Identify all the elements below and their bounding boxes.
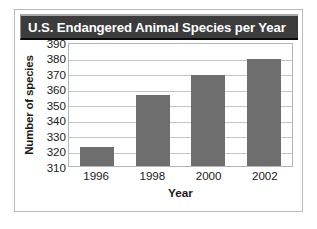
y-axis-title: Number of species [18,43,40,167]
y-axis-tick-label: 350 [47,99,66,112]
bar [191,75,225,166]
y-axis-tick-label: 330 [47,130,66,143]
y-axis-tick-label: 320 [47,145,66,158]
x-axis-tick-label: 2002 [248,169,282,182]
plot-box [68,43,293,167]
y-axis-title-text: Number of species [23,55,35,155]
chart-title: U.S. Endangered Animal Species per Year [21,20,286,35]
y-axis-tick-label: 310 [47,161,66,174]
x-axis-tick-label: 2000 [192,169,226,182]
y-axis-tick-label: 340 [47,114,66,127]
x-axis-tick-labels: 1996199820002002 [68,169,293,187]
y-axis-tick-label: 390 [47,37,66,50]
chart-figure: U.S. Endangered Animal Species per Year … [14,9,303,212]
x-axis-title: Year [68,186,293,200]
bar [80,147,114,166]
y-axis-tick-labels: 390380370360350340330320310 [40,43,67,167]
y-axis-tick-label: 380 [47,52,66,65]
chart-plot-area: Number of species 3903803703603503403303… [20,43,298,207]
bar [247,59,281,166]
x-axis-tick-label: 1998 [135,169,169,182]
x-axis-tick-label: 1996 [79,169,113,182]
y-axis-tick-label: 360 [47,83,66,96]
bar-series [69,44,292,166]
y-axis-tick-label: 370 [47,68,66,81]
bar [136,95,170,166]
